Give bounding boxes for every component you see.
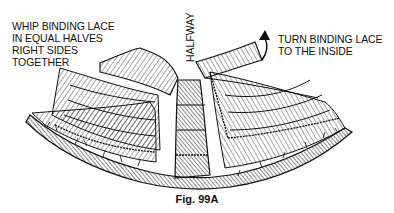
- halfway-label: HALFWAY: [184, 12, 196, 62]
- center-panel: [175, 80, 210, 178]
- label-line: IN EQUAL HALVES: [12, 32, 132, 44]
- right-panel: [210, 72, 345, 168]
- label-line: WHIP BINDING LACE: [12, 20, 132, 32]
- figure-caption: Fig. 99A: [0, 193, 394, 205]
- right-binding-turned: [196, 42, 262, 78]
- label-line: RIGHT SIDES: [12, 44, 132, 56]
- turn-binding-label: TURN BINDING LACE TO THE INSIDE: [278, 33, 394, 57]
- label-line: TURN BINDING LACE: [278, 33, 394, 45]
- whip-binding-label: WHIP BINDING LACE IN EQUAL HALVES RIGHT …: [12, 20, 132, 68]
- label-line: TOGETHER: [12, 56, 132, 68]
- label-line: TO THE INSIDE: [278, 45, 394, 57]
